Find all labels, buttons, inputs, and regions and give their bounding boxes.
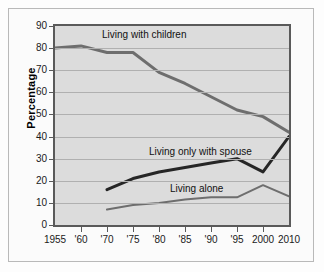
x-tick-mark [107,227,108,232]
x-tick-label: 2010 [273,234,305,245]
x-tick-mark [237,227,238,232]
gridline [55,159,289,160]
x-tick-mark [185,227,186,232]
gridline [55,92,289,93]
series-line [55,46,289,132]
y-tick-label: 70 [23,65,47,75]
gridline [55,181,289,182]
x-tick-mark [159,227,160,232]
y-tick-label: 10 [23,198,47,208]
x-tick-mark [211,227,212,232]
plot-frame: Living with childrenLiving only with spo… [53,24,291,227]
y-tick-label: 50 [23,109,47,119]
series-layer [55,26,289,225]
gridline [55,70,289,71]
x-tick-mark [81,227,82,232]
y-tick-label: 30 [23,154,47,164]
series-label: Living only with spouse [149,146,252,157]
x-tick-mark [133,227,134,232]
x-tick-mark [263,227,264,232]
y-tick-label: 90 [23,21,47,31]
y-tick-label: 40 [23,132,47,142]
gridline [55,203,289,204]
series-label: Living alone [170,183,223,194]
y-tick-label: 0 [23,220,47,230]
gridline [55,48,289,49]
series-label: Living with children [102,29,187,40]
chart-figure: Percentage 9080706050403020100 Living wi… [0,0,324,272]
y-tick-label: 60 [23,87,47,97]
gridline [55,114,289,115]
plot-area: Living with childrenLiving only with spo… [55,26,289,225]
y-tick-label: 20 [23,176,47,186]
y-tick-label: 80 [23,43,47,53]
gridline [55,137,289,138]
